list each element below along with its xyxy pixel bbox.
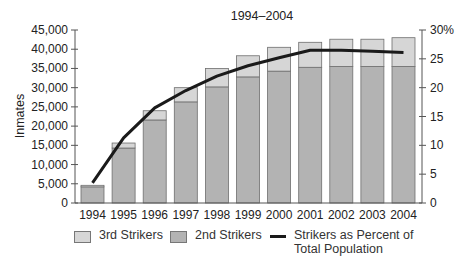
legend-swatch-line <box>270 235 286 238</box>
legend-item-percent-line: Strikers as Percent of Total Population <box>270 228 414 256</box>
legend-label-line: Strikers as Percent of Total Population <box>294 228 414 256</box>
bar-3rd-strikers <box>299 42 322 67</box>
bar-2nd-strikers <box>392 67 415 203</box>
left-tick-label: 25,000 <box>31 100 68 114</box>
right-tick-label: 25 <box>430 52 444 66</box>
legend-item-2nd-strikers: 2nd Strikers <box>170 228 262 243</box>
legend-swatch-2nd <box>170 231 187 243</box>
bar-2nd-strikers <box>268 71 291 203</box>
left-tick-label: 15,000 <box>31 138 68 152</box>
x-axis: 1994199519961997199819992000200120022003… <box>75 203 422 222</box>
right-tick-label: 20 <box>430 81 444 95</box>
left-tick-label: 0 <box>61 196 68 210</box>
x-tick-label: 2001 <box>297 208 324 222</box>
legend-line-text-2: Total Population <box>294 242 383 256</box>
left-tick-label: 30,000 <box>31 81 68 95</box>
bar-2nd-strikers <box>237 77 260 203</box>
bar-2nd-strikers <box>330 67 353 203</box>
legend-swatch-3rd <box>74 231 91 243</box>
bars-group <box>81 38 415 203</box>
x-tick-label: 1998 <box>204 208 231 222</box>
chart-canvas: 1994–2004 Inmates 05,00010,00015,00020,0… <box>0 0 468 266</box>
left-tick-label: 35,000 <box>31 61 68 75</box>
bar-3rd-strikers <box>330 39 353 66</box>
right-tick-label: 10 <box>430 138 444 152</box>
bar-2nd-strikers <box>112 148 135 203</box>
right-tick-label: 5 <box>430 167 437 181</box>
left-tick-label: 10,000 <box>31 158 68 172</box>
bar-2nd-strikers <box>174 102 197 203</box>
bar-2nd-strikers <box>361 67 384 203</box>
x-tick-label: 1997 <box>172 208 199 222</box>
right-y-axis: 051015202530% <box>419 23 454 210</box>
bar-2nd-strikers <box>205 87 228 203</box>
bar-2nd-strikers <box>81 187 104 203</box>
left-tick-label: 20,000 <box>31 119 68 133</box>
bar-2nd-strikers <box>299 67 322 203</box>
y-axis-label: Inmates <box>13 94 27 138</box>
right-tick-label: 0 <box>430 196 437 210</box>
left-tick-label: 45,000 <box>31 23 68 37</box>
x-tick-label: 1995 <box>110 208 137 222</box>
right-tick-label: 15 <box>430 110 444 124</box>
legend: 3rd Strikers 2nd Strikers Strikers as Pe… <box>0 228 468 266</box>
legend-item-3rd-strikers: 3rd Strikers <box>74 228 163 243</box>
right-tick-label: 30% <box>430 23 454 37</box>
x-tick-label: 2002 <box>328 208 355 222</box>
x-tick-label: 1999 <box>235 208 262 222</box>
legend-label-2nd: 2nd Strikers <box>195 228 262 242</box>
x-tick-label: 1996 <box>141 208 168 222</box>
left-y-axis: 05,00010,00015,00020,00025,00030,00035,0… <box>31 23 78 210</box>
x-tick-label: 2004 <box>390 208 417 222</box>
legend-label-3rd: 3rd Strikers <box>99 228 163 242</box>
chart-title: 1994–2004 <box>231 9 294 23</box>
x-tick-label: 1994 <box>79 208 106 222</box>
x-tick-label: 2003 <box>359 208 386 222</box>
bar-2nd-strikers <box>143 120 166 203</box>
bar-3rd-strikers <box>81 185 104 187</box>
legend-line-text-1: Strikers as Percent of <box>294 228 414 242</box>
left-tick-label: 5,000 <box>38 177 68 191</box>
left-tick-label: 40,000 <box>31 42 68 56</box>
x-tick-label: 2000 <box>266 208 293 222</box>
